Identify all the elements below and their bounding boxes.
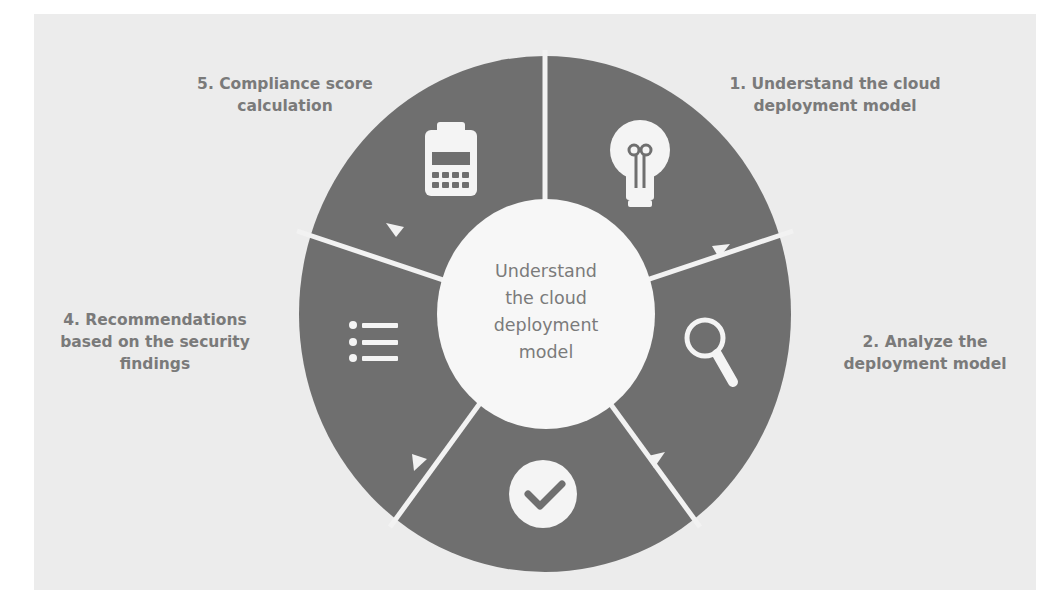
step-4-label: 4. Recommendations based on the security… [20, 309, 290, 375]
step-5-label-line: 5. Compliance score [160, 73, 410, 95]
step-1-label: 1. Understand the cloud deployment model [700, 73, 970, 117]
step-2-label: 2. Analyze the deployment model [805, 331, 1045, 375]
step-5-label: 5. Compliance score calculation [160, 73, 410, 117]
center-label-line: deployment [456, 312, 636, 339]
step-4-label-line: based on the security [20, 331, 290, 353]
step-2-label-line: 2. Analyze the [805, 331, 1045, 353]
step-4-label-line: 4. Recommendations [20, 309, 290, 331]
center-label-line: Understand [456, 258, 636, 285]
step-1-label-line: 1. Understand the cloud [700, 73, 970, 95]
step-4-label-line: findings [20, 353, 290, 375]
calculator-icon [425, 122, 477, 196]
center-label-line: model [456, 339, 636, 366]
step-1-label-line: deployment model [700, 95, 970, 117]
center-label: Understand the cloud deployment model [456, 258, 636, 366]
checkmark-circle-icon [509, 460, 577, 528]
center-label-line: the cloud [456, 285, 636, 312]
step-5-label-line: calculation [160, 95, 410, 117]
step-2-label-line: deployment model [805, 353, 1045, 375]
